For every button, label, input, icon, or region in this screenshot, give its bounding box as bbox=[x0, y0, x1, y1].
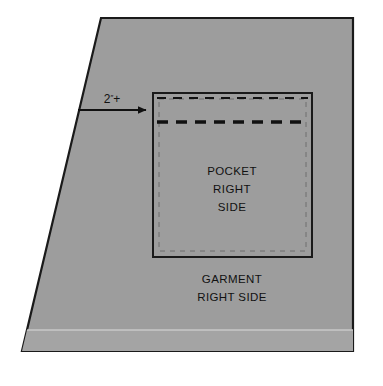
garment-piece bbox=[0, 18, 383, 354]
pocket-label-line-1: POCKET bbox=[207, 165, 257, 177]
garment-shading bbox=[0, 330, 383, 354]
garment-label-line-1: GARMENT bbox=[202, 273, 262, 285]
sewing-pattern-diagram: 2″+ POCKET RIGHT SIDE GARMENT RIGHT SIDE bbox=[0, 0, 383, 386]
garment-outline bbox=[22, 18, 353, 351]
garment-label-line-2: RIGHT SIDE bbox=[197, 291, 267, 303]
measurement-modifier: + bbox=[113, 92, 120, 106]
diagram-canvas: 2″+ POCKET RIGHT SIDE GARMENT RIGHT SIDE bbox=[0, 0, 383, 386]
garment-lower-band bbox=[0, 330, 383, 354]
pocket-label-line-2: RIGHT bbox=[213, 183, 251, 195]
pocket-label-line-3: SIDE bbox=[218, 201, 246, 213]
